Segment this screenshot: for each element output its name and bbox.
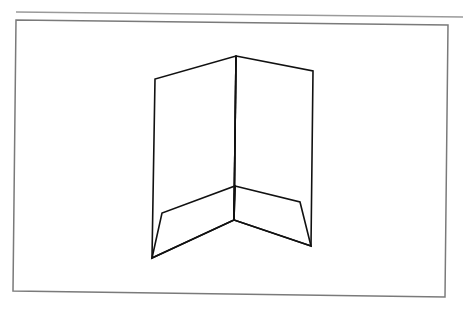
folder-left-pocket xyxy=(152,186,235,258)
diagram-frame xyxy=(13,20,448,297)
pocket-folder-drawing xyxy=(152,56,313,258)
top-rule-line xyxy=(16,12,463,17)
folder-left-panel xyxy=(152,56,236,258)
folder-right-panel xyxy=(234,56,313,246)
folder-diagram xyxy=(0,0,463,315)
folder-right-pocket xyxy=(234,186,311,246)
